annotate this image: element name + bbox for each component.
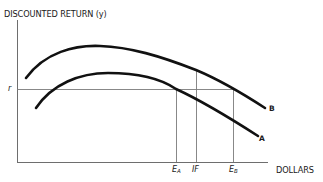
curve-a-label: A — [259, 135, 265, 143]
eb-label-sub: B — [234, 168, 238, 174]
r-label: r — [8, 85, 11, 93]
x-axis-label: DOLLARS — [276, 166, 314, 174]
diagram: DISCOUNTED RETURN (y) DOLLARS r EA IF EB… — [0, 0, 323, 182]
if-label: IF — [192, 166, 199, 174]
curve-b-label: B — [269, 105, 275, 113]
diagram-svg — [0, 0, 323, 182]
ea-label: EA — [172, 166, 181, 175]
eb-label: EB — [229, 166, 238, 175]
y-axis-label: DISCOUNTED RETURN (y) — [4, 10, 107, 18]
ea-label-sub: A — [177, 168, 181, 174]
